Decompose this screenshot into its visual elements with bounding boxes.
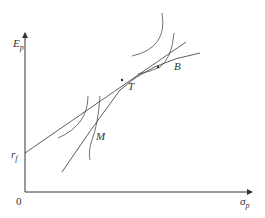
point-b-label: B (174, 60, 181, 72)
risk-free-label: rf (11, 148, 19, 163)
y-axis-label: Ep (12, 37, 24, 52)
tangency-point (121, 79, 123, 81)
indifference-curve-b2 (138, 33, 174, 74)
indifference-curve-b1 (132, 13, 163, 56)
point-t-label: T (128, 80, 135, 92)
origin-label: 0 (16, 195, 22, 207)
point-m-label: M (95, 130, 106, 142)
x-axis-label: σp (240, 195, 249, 210)
point-b-dot (157, 66, 159, 68)
portfolio-diagram: Ep σp 0 rf M T B (0, 0, 265, 218)
capital-market-line (25, 42, 186, 153)
indifference-curve-m1 (58, 96, 88, 138)
indifference-curve-m2 (89, 96, 100, 160)
